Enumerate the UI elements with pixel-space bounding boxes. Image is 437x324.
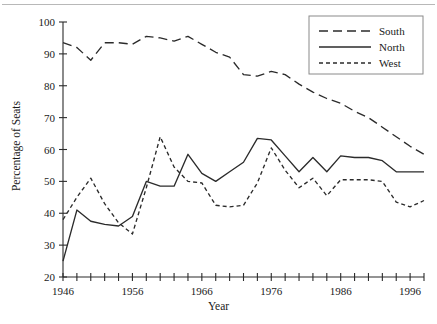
y-axis-title: Percentage of Seats [10, 86, 22, 206]
y-tick-label: 50 [44, 175, 56, 187]
y-axis: 2030405060708090100 [39, 16, 68, 283]
legend-box [309, 16, 423, 74]
chart-figure: 2030405060708090100 19461956196619761986… [0, 0, 437, 324]
x-tick-label: 1956 [121, 285, 144, 297]
series-line-west [63, 137, 424, 234]
y-tick-label: 70 [44, 112, 56, 124]
y-tick-label: 100 [39, 16, 56, 28]
series-line-north [63, 138, 424, 261]
y-tick-label: 60 [44, 144, 56, 156]
y-tick-label: 20 [44, 271, 56, 283]
legend-label-west: West [379, 57, 401, 69]
x-axis: 194619561966197619861996 [52, 273, 424, 297]
y-tick-label: 90 [44, 48, 56, 60]
x-tick-label: 1966 [191, 285, 214, 297]
line-chart-plot: 2030405060708090100 19461956196619761986… [0, 0, 437, 324]
x-tick-label: 1976 [260, 285, 283, 297]
x-tick-label: 1996 [399, 285, 422, 297]
y-tick-label: 40 [44, 207, 56, 219]
x-tick-label: 1986 [330, 285, 353, 297]
legend-label-north: North [379, 41, 405, 53]
y-tick-label: 80 [44, 80, 56, 92]
y-tick-label: 30 [44, 239, 56, 251]
x-axis-title: Year [0, 300, 437, 312]
legend-label-south: South [379, 25, 405, 37]
x-tick-label: 1946 [52, 285, 75, 297]
chart-legend: SouthNorthWest [309, 16, 423, 74]
